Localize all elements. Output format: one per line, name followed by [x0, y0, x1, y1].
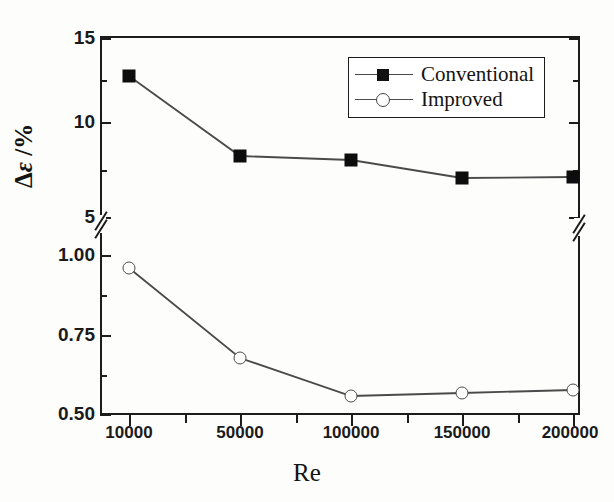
y-tick-right-major [569, 38, 580, 40]
legend-label-conventional: Conventional [421, 62, 534, 87]
y-tick-right-major [569, 122, 580, 124]
y-axis-title-unit: /% [10, 124, 37, 162]
legend-item-improved: Improved [355, 87, 534, 112]
data-point-improved [567, 384, 580, 397]
data-point-improved [456, 387, 469, 400]
chart-canvas: 15 10 5 1.00 0.75 0.50 10000 50000 10000… [0, 0, 614, 502]
data-point-conventional [123, 70, 136, 83]
y-tick-right-minor [573, 80, 580, 82]
x-tick-minor [518, 415, 520, 423]
data-point-conventional [234, 150, 247, 163]
y-tick-label-0-75: 0.75 [58, 324, 95, 346]
y-tick-major [100, 122, 111, 124]
y-tick-major [100, 38, 111, 40]
y-axis-break-left [88, 213, 114, 235]
y-tick-minor [100, 80, 107, 82]
x-tick-minor [407, 415, 409, 423]
x-tick-label-10000: 10000 [105, 423, 152, 443]
data-point-improved [234, 352, 247, 365]
x-tick-label-50000: 50000 [216, 423, 263, 443]
legend-item-conventional: Conventional [355, 62, 534, 87]
y-tick-label-0-50: 0.50 [58, 403, 95, 425]
y-tick-minor [100, 375, 107, 377]
y-axis-title-delta: Δ [10, 172, 37, 188]
y-axis-title-epsilon: ε [10, 162, 37, 172]
x-tick-minor [185, 415, 187, 423]
x-tick-minor [296, 415, 298, 423]
y-tick-minor [100, 295, 107, 297]
y-axis-break-right [566, 216, 592, 238]
x-axis-title: Re [0, 459, 614, 487]
y-tick-major [100, 335, 111, 337]
y-tick-label-15: 15 [74, 27, 95, 49]
x-tick-label-200000: 200000 [542, 423, 599, 443]
y-tick-major [100, 255, 111, 257]
y-axis-title: Δε /% [10, 124, 38, 188]
open-circle-icon [355, 93, 413, 107]
data-point-conventional [345, 154, 358, 167]
filled-square-icon [355, 68, 413, 82]
data-point-conventional [567, 171, 580, 184]
x-tick-label-100000: 100000 [323, 423, 380, 443]
x-tick-label-150000: 150000 [434, 423, 491, 443]
data-point-improved [345, 390, 358, 403]
y-tick-label-10: 10 [74, 111, 95, 133]
y-tick-major [100, 414, 111, 416]
chart-legend: Conventional Improved [348, 57, 545, 118]
y-tick-label-1-00: 1.00 [58, 244, 95, 266]
data-point-improved [123, 262, 136, 275]
data-point-conventional [456, 172, 469, 185]
legend-label-improved: Improved [421, 87, 503, 112]
y-tick-minor [100, 170, 107, 172]
